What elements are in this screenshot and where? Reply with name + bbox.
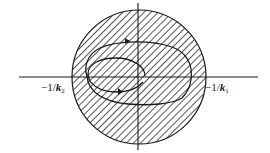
label-minus-inverse-k1: −1/k1 [205,82,229,95]
label-prefix: −1/ [41,81,56,93]
nyquist-diagram [0,0,270,153]
label-sub: 2 [61,87,65,95]
label-prefix: −1/ [205,81,220,93]
label-minus-inverse-k2: −1/k2 [41,82,65,95]
label-sub: 1 [225,87,229,95]
